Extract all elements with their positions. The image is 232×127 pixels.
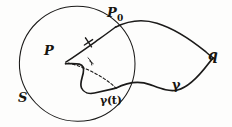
label-p0-base: P (107, 5, 117, 20)
geodesic-diagram-figure: P0 P S q γ γ(t) (0, 0, 232, 127)
label-p0-subscript: 0 (117, 13, 123, 23)
dashed-segment-p-to-gamma-t (68, 63, 116, 88)
label-point-q: q (208, 48, 218, 62)
label-point-p0: P0 (107, 6, 123, 23)
label-curve-gamma: γ (172, 78, 181, 91)
curve-gamma-inner (66, 64, 116, 94)
label-point-p: P (44, 44, 54, 57)
label-disc-s: S (18, 91, 27, 104)
label-gamma-of-t: γ(t) (100, 95, 122, 106)
